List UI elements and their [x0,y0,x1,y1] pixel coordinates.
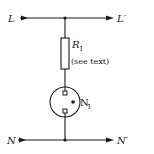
label-see-text: (see text) [71,57,109,66]
circuit-diagram: L L′ R 1 (see text) N 1 N [0,0,154,154]
label-L: L [7,13,15,24]
arrow-in-icon [19,138,26,143]
resistor-R1 [61,38,69,69]
label-N-prime: N′ [116,135,129,146]
gas-fill-dot-icon [71,100,75,104]
arrow-out-icon [106,16,114,21]
label-L-prime: L′ [116,13,127,24]
arrow-out-icon [106,138,114,143]
label-N: N [6,135,17,146]
electrode-top-icon [63,91,67,95]
electrode-bottom-icon [63,109,67,113]
neutral-line [18,138,114,143]
arrow-in-icon [21,16,28,21]
junction-dot-bottom [63,138,66,141]
label-R1-subscript: 1 [79,45,83,53]
label-N1-subscript: 1 [87,103,91,111]
neon-lamp-N1 [50,87,80,117]
live-line [20,16,114,21]
